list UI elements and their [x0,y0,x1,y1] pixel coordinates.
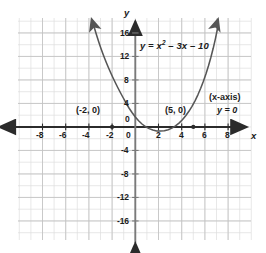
x-axis-caption: (x-axis) [209,93,241,102]
parabola-curve [92,21,217,131]
y-axis-label: y [124,8,129,18]
y-tick-label--12: -12 [117,193,129,202]
equation-suffix: – 3x – 10 [166,40,209,51]
coordinate-plane [0,0,266,253]
x-tick-label--8: -8 [36,131,43,140]
root-label-right: (5, 0) [165,106,186,115]
y-tick-label-8: 8 [124,76,129,85]
x-tick-label-6: 6 [202,131,207,140]
root-marker-right [191,125,195,129]
root-marker-left [110,125,114,129]
y-tick-label-0: 0 [125,115,130,124]
y-tick-label--4: -4 [121,146,128,155]
y-tick-label--16: -16 [117,217,129,226]
x-axis-label: x [251,131,256,141]
y-tick-label-4: 4 [124,99,129,108]
equation-prefix: y = x [140,40,162,51]
x-tick-label-0: 0 [126,131,131,140]
x-tick-label--6: -6 [59,131,66,140]
equation-label: y = x2 – 3x – 10 [140,41,209,51]
curve-arrowhead-left [92,19,94,26]
x-tick-label-4: 4 [179,131,184,140]
x-tick-label-2: 2 [156,131,161,140]
y-tick-label--8: -8 [121,170,128,179]
x-tick-label-8: 8 [225,131,230,140]
root-label-left: (-2, 0) [76,106,100,115]
x-axis-equation: y = 0 [217,106,237,115]
y-tick-label-12: 12 [120,52,129,61]
x-tick-label--4: -4 [82,131,89,140]
x-tick-label--2: -2 [106,131,113,140]
y-tick-label-16: 16 [120,29,129,38]
graph-figure: y x -8 -6 -4 -2 0 2 4 6 8 16 12 8 4 0 -4… [0,0,266,253]
